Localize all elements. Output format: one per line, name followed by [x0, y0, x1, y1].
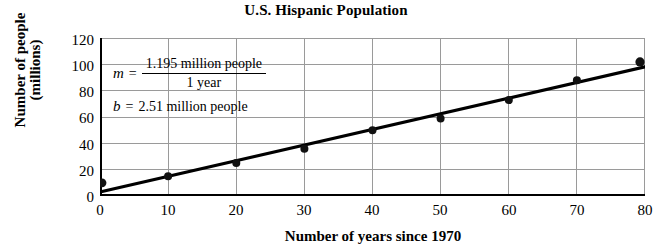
intercept-value: 2.51 million people — [138, 99, 247, 115]
chart-title: U.S. Hispanic Population — [0, 2, 652, 19]
x-tick-label-30: 30 — [284, 203, 324, 218]
data-point — [164, 172, 172, 180]
slope-numerator: 1.195 million people — [142, 56, 266, 74]
slope-denominator: 1 year — [183, 74, 226, 91]
data-point — [573, 76, 581, 84]
y-tick-label-60: 60 — [48, 111, 94, 126]
y-tick-label-100: 100 — [48, 59, 94, 74]
x-axis-title: Number of years since 1970 — [100, 228, 646, 245]
data-point — [505, 96, 513, 104]
data-point — [437, 115, 445, 123]
data-point — [369, 126, 377, 134]
y-tick-label-120: 120 — [48, 33, 94, 48]
data-point — [300, 145, 308, 153]
intercept-equals-sign: = — [125, 99, 139, 115]
intercept-equation: b = 2.51 million people — [113, 98, 266, 115]
slope-variable: m — [113, 65, 128, 82]
y-axis-title-line-2: (millions) — [28, 40, 43, 101]
data-point — [635, 57, 644, 66]
data-point — [232, 159, 240, 167]
slope-equals-sign: = — [128, 66, 142, 82]
intercept-variable: b — [113, 98, 125, 115]
x-tick-label-60: 60 — [489, 203, 529, 218]
y-axis-title: Number of people (millions) — [6, 0, 50, 150]
x-tick-label-10: 10 — [148, 203, 188, 218]
x-tick-label-50: 50 — [420, 203, 460, 218]
x-tick-label-20: 20 — [216, 203, 256, 218]
y-tick-label-40: 40 — [48, 138, 94, 153]
x-tick-label-70: 70 — [557, 203, 597, 218]
equation-annotation: m = 1.195 million people 1 year b = 2.51… — [113, 56, 266, 115]
y-tick-label-20: 20 — [48, 164, 94, 179]
data-point — [100, 178, 106, 187]
y-tick-label-80: 80 — [48, 85, 94, 100]
slope-fraction: 1.195 million people 1 year — [142, 56, 266, 91]
x-tick-label-40: 40 — [352, 203, 392, 218]
x-tick-label-0: 0 — [80, 203, 120, 218]
slope-equation: m = 1.195 million people 1 year — [113, 56, 266, 91]
y-axis-title-line-1: Number of people — [13, 13, 28, 128]
x-tick-label-80: 80 — [625, 203, 657, 218]
